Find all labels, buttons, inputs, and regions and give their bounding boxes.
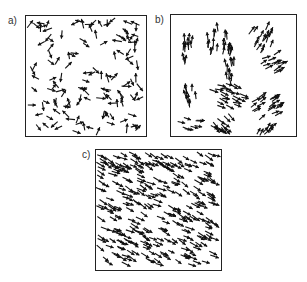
arrow-field [0, 0, 307, 282]
